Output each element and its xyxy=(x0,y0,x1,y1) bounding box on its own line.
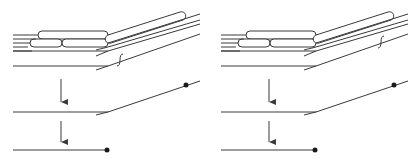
break-mark-left xyxy=(117,54,123,66)
panel-left xyxy=(13,12,200,153)
panel-right xyxy=(221,12,408,153)
diagram-figure xyxy=(0,0,418,161)
diagram-canvas xyxy=(0,0,418,161)
break-mark-right xyxy=(378,36,384,48)
